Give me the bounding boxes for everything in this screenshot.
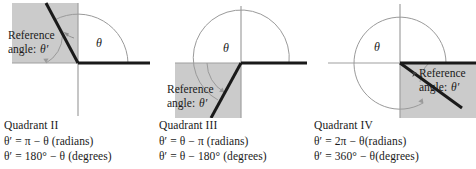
formula-degrees: θ′ = 360° − θ(degrees)	[314, 149, 419, 165]
formula-radians: θ′ = 2π − θ(radians)	[314, 134, 419, 150]
formula-radians: θ′ = π − θ (radians)	[4, 134, 112, 150]
panel-quadrant-2: θ Reference angle:θ′ Quadrant II θ′ = π …	[0, 0, 155, 169]
theta-label: θ	[374, 40, 380, 54]
caption-quadrant-4: Quadrant IV θ′ = 2π − θ(radians) θ′ = 36…	[314, 118, 419, 165]
formula-degrees: θ′ = θ − 180° (degrees)	[159, 149, 267, 165]
diagram-quadrant-4: θ Reference angle:θ′	[310, 0, 476, 118]
reference-angle-label-word: angle:	[419, 81, 447, 94]
reference-angle-label-word: angle:	[167, 97, 195, 110]
theta-label: θ	[223, 41, 229, 55]
reference-angle-label-line2: angle:θ′	[419, 81, 460, 94]
formula-degrees: θ′ = 180° − θ (degrees)	[4, 149, 112, 165]
panel-quadrant-3: θ Reference angle:θ′ Quadrant III θ′ = θ…	[155, 0, 310, 169]
theta-label: θ	[96, 36, 102, 50]
reference-angle-label-line2: angle:θ′	[167, 97, 208, 110]
diagram-quadrant-2: θ Reference angle:θ′	[0, 0, 155, 118]
reference-angle-label-line1: Reference	[8, 29, 55, 41]
reference-angle-symbol: θ′	[451, 81, 460, 93]
quadrant-label: Quadrant IV	[314, 118, 419, 134]
caption-quadrant-3: Quadrant III θ′ = θ − π (radians) θ′ = θ…	[159, 118, 267, 165]
quadrant-label: Quadrant III	[159, 118, 267, 134]
formula-radians: θ′ = θ − π (radians)	[159, 134, 267, 150]
reference-angle-symbol: θ′	[199, 97, 208, 109]
reference-angle-label-line2: angle:θ′	[8, 43, 49, 56]
reference-angle-label-line1: Reference	[419, 67, 466, 79]
caption-quadrant-2: Quadrant II θ′ = π − θ (radians) θ′ = 18…	[4, 118, 112, 165]
reference-angle-label-line1: Reference	[167, 83, 214, 95]
reference-angle-symbol: θ′	[40, 43, 49, 55]
diagram-quadrant-3: θ Reference angle:θ′	[155, 0, 310, 118]
panel-quadrant-4: θ Reference angle:θ′ Quadrant IV θ′ = 2π…	[310, 0, 476, 169]
reference-angle-figure: θ Reference angle:θ′ Quadrant II θ′ = π …	[0, 0, 476, 169]
reference-angle-label-word: angle:	[8, 43, 36, 56]
quadrant-label: Quadrant II	[4, 118, 112, 134]
